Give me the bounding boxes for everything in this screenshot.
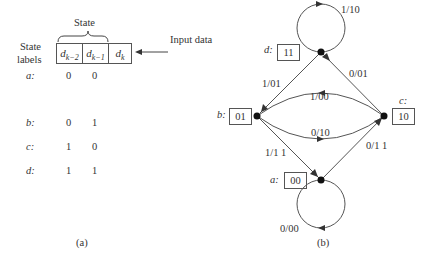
node-a-state: 00 (284, 172, 307, 189)
node-b (254, 113, 261, 120)
node-c-label: c: (399, 95, 407, 106)
caption-b: (b) (317, 237, 329, 248)
edge-label-a-a: 0/00 (280, 223, 299, 234)
node-d (318, 49, 325, 56)
edge-label-b-a: 1/1 1 (265, 147, 286, 158)
node-b-label: b: (217, 109, 226, 120)
edge-label-d-b: 1/01 (262, 78, 281, 89)
edge-label-a-c: 0/1 1 (366, 140, 387, 151)
state-diagram-edges (0, 0, 435, 263)
node-c (381, 113, 388, 120)
node-a-label: a: (270, 174, 279, 185)
node-c-state: 10 (392, 108, 415, 125)
edge-label-c-b: 1/00 (310, 91, 329, 102)
node-d-state: 11 (277, 44, 300, 61)
edge-label-b-c: 0/10 (311, 127, 330, 138)
edge-label-c-d: 0/01 (349, 68, 368, 79)
node-b-state: 01 (229, 108, 252, 125)
edge-label-d-d: 1/10 (341, 4, 360, 15)
node-d-label: d: (264, 44, 273, 55)
node-a (318, 177, 325, 184)
